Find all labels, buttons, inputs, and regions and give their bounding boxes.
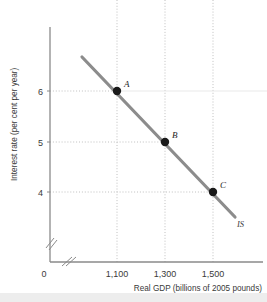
horizontal-gridlines	[50, 91, 213, 192]
y-axis-label: Interest rate (per cent per year)	[10, 67, 19, 181]
data-point-b	[161, 138, 169, 146]
y-tick-label-6: 6	[38, 87, 43, 97]
y-tick-label-4: 4	[38, 188, 43, 198]
x-tick-label-1500: 1,500	[202, 269, 225, 279]
x-axis-label: Real GDP (billions of 2005 pounds)	[134, 284, 262, 293]
data-point-a	[113, 87, 121, 95]
page-bottom-band	[0, 293, 267, 302]
origin-label: 0	[41, 269, 46, 279]
x-tick-label-1300: 1,300	[154, 269, 177, 279]
vertical-gridlines	[117, 0, 213, 262]
x-tick-label-1100: 1,100	[106, 269, 129, 279]
chart-figure: A B C IS 6 5 4 0 1,100 1,300 1,500 Real …	[0, 0, 267, 302]
curve-label-is: IS	[236, 219, 245, 229]
y-tick-label-5: 5	[38, 138, 43, 148]
axes	[50, 27, 263, 262]
point-label-a: A	[123, 79, 130, 89]
point-label-c: C	[220, 180, 227, 190]
data-point-c	[209, 188, 217, 196]
point-label-b: B	[172, 130, 178, 140]
